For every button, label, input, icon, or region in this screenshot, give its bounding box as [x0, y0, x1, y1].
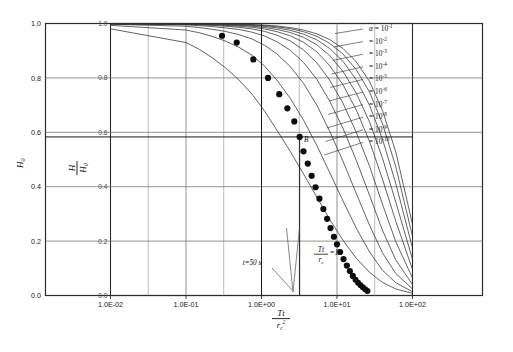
svg-text:=1: =1: [330, 248, 339, 257]
svg-text:H: H: [67, 164, 77, 172]
legend-leader-line: [334, 42, 363, 47]
data-point: [340, 256, 346, 262]
legend-entry: = 10-4: [369, 61, 387, 71]
x-tick-label: 1.0E+02: [399, 300, 426, 309]
data-point: [309, 173, 315, 179]
data-point: [300, 148, 306, 154]
svg-text:rc: rc: [318, 255, 324, 265]
y-inner-tick-label: 0.2: [98, 238, 107, 245]
data-point: [331, 234, 337, 240]
y-inner-tick-label: 0.8: [98, 74, 107, 81]
legend-entry: = 10-10: [369, 136, 390, 146]
y-axis-inner-label: H H0: [67, 161, 89, 175]
y-inner-tick-label: 0.0: [98, 292, 107, 299]
legend-entry: = 10-5: [369, 73, 387, 83]
y-axis-inner-tick-labels: 0.00.20.40.60.81.0: [98, 20, 107, 299]
data-point: [265, 75, 271, 81]
y-inner-tick-label: 0.4: [98, 183, 107, 190]
legend-entry: = 10-2: [369, 36, 387, 46]
x-tick-label: 1.0E-01: [173, 300, 198, 309]
legend-leader-line: [327, 117, 363, 128]
legend-leader-line: [335, 29, 363, 34]
data-point: [334, 241, 340, 247]
y-tick-label: 0.8: [31, 74, 41, 83]
data-point: [327, 225, 333, 231]
legend-leader-lines: [324, 29, 363, 155]
reference-lines: [46, 24, 413, 296]
y-inner-tick-label: 0.6: [98, 129, 107, 136]
data-point: [324, 216, 330, 222]
svg-text:Tt: Tt: [277, 308, 285, 318]
data-point: [316, 196, 322, 202]
legend-leader-line: [324, 142, 363, 155]
figure-container: 1.0E-021.0E-011.0E+001.0E+011.0E+02 0.00…: [0, 0, 513, 352]
time-annotation: t=50 s: [243, 259, 262, 267]
data-point: [297, 134, 303, 140]
data-point: [234, 39, 240, 45]
legend-entry: = 10-6: [369, 86, 387, 96]
x-tick-label: 1.0E-02: [98, 300, 123, 309]
data-point: [344, 262, 350, 268]
svg-text:rc2: rc2: [277, 319, 286, 331]
y-axis-outer-label: H0: [15, 159, 26, 170]
chart-svg: 1.0E-021.0E-011.0E+001.0E+011.0E+02 0.00…: [0, 0, 513, 352]
data-point: [312, 184, 318, 190]
svg-text:Tt: Tt: [318, 245, 325, 254]
time-annotation-arrow: [287, 228, 300, 292]
y-tick-label: 1.0: [31, 19, 41, 28]
legend: α = 10-1= 10-2= 10-3= 10-4= 10-5= 10-6= …: [369, 23, 393, 146]
y-tick-label: 0.2: [31, 237, 41, 246]
legend-entry: = 10-7: [369, 99, 387, 109]
x-axis-tick-labels: 1.0E-021.0E-011.0E+001.0E+011.0E+02: [98, 296, 426, 310]
data-point: [320, 206, 326, 212]
y-tick-label: 0.6: [31, 128, 41, 137]
data-point: [305, 160, 311, 166]
x-axis-label: Tt rc2: [272, 308, 290, 331]
data-point: [219, 33, 225, 39]
data-point: [284, 105, 290, 111]
x-tick-label: 1.0E+01: [324, 300, 351, 309]
legend-entry: α = 10-1: [369, 23, 393, 33]
svg-text:H0: H0: [78, 163, 89, 174]
legend-entry: = 10-8: [369, 111, 387, 121]
data-point: [291, 118, 297, 124]
y-tick-label: 0.0: [31, 291, 41, 300]
data-point: [364, 288, 370, 294]
data-point: [250, 56, 256, 62]
time-annotation-leader: [272, 268, 292, 290]
ratio-annotation: Tt rc =1: [314, 245, 338, 265]
y-inner-tick-label: 1.0: [98, 20, 107, 27]
data-point: [276, 91, 282, 97]
legend-entry: = 10-3: [369, 48, 387, 58]
x-tick-label: 1.0E+00: [248, 300, 275, 309]
y-axis-tick-labels: 0.00.20.40.60.81.0: [31, 19, 41, 300]
match-point-label: B: [304, 136, 309, 144]
svg-text:H0: H0: [15, 159, 26, 170]
y-tick-label: 0.4: [31, 182, 41, 191]
